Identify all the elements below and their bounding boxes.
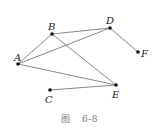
caption-number: 6-8 xyxy=(82,114,98,124)
label-b: B xyxy=(47,21,55,32)
edge-b-e xyxy=(52,34,116,85)
caption-prefix: 图 xyxy=(61,114,71,124)
edge-a-b xyxy=(18,34,52,64)
node-b xyxy=(50,32,54,36)
edge-d-f xyxy=(110,28,138,52)
node-e xyxy=(114,83,118,87)
node-d xyxy=(108,26,112,30)
label-e: E xyxy=(111,89,120,100)
edges xyxy=(18,28,138,90)
label-c: C xyxy=(45,94,53,105)
label-d: D xyxy=(105,15,114,26)
node-f xyxy=(136,50,140,54)
node-labels: A B C D E F xyxy=(13,15,149,105)
nodes xyxy=(16,26,140,92)
node-c xyxy=(48,88,52,92)
edge-c-e xyxy=(50,85,116,90)
edge-a-d xyxy=(18,28,110,64)
figure-caption: 图 6-8 xyxy=(0,112,159,125)
label-f: F xyxy=(140,48,149,59)
label-a: A xyxy=(13,52,21,63)
edge-a-e xyxy=(18,64,116,85)
